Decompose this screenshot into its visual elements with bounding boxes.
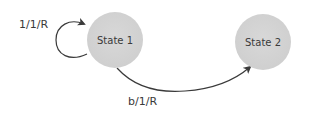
state-node-2: State 2	[235, 14, 291, 70]
self-loop-label: 1/1/R	[19, 18, 48, 31]
self-loop-edge	[56, 22, 87, 57]
state-node-1: State 1	[87, 12, 143, 68]
state-diagram: State 1 State 2 1/1/R b/1/R	[0, 0, 309, 114]
transition-label: b/1/R	[128, 95, 157, 108]
state-label: State 2	[245, 37, 281, 48]
transition-edge-s1-s2	[117, 67, 250, 91]
state-label: State 1	[97, 35, 133, 46]
